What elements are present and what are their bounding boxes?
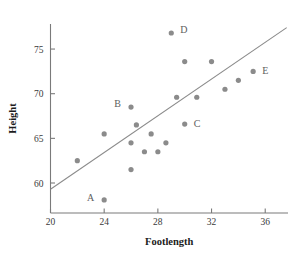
- regression-line: [51, 28, 287, 190]
- data-point: [155, 149, 160, 154]
- data-points: [75, 30, 256, 202]
- plot-canvas: 2024283236 60657075 ABCDE Footlength Hei…: [0, 0, 305, 263]
- data-point-label-c: C: [194, 118, 201, 129]
- x-tick-label: 36: [260, 217, 270, 227]
- y-tick-label: 60: [34, 179, 44, 189]
- x-axis-title: Footlength: [145, 236, 194, 247]
- x-tick-label: 28: [153, 217, 163, 227]
- data-point-label-d: D: [180, 24, 187, 35]
- x-tick-label: 32: [207, 217, 217, 227]
- data-point-label-e: E: [262, 65, 268, 76]
- data-point: [236, 78, 241, 83]
- y-axis-title: Height: [7, 103, 18, 134]
- data-point: [182, 59, 187, 64]
- data-point: [128, 140, 133, 145]
- axes: [51, 24, 289, 213]
- data-point: [102, 131, 107, 136]
- data-point: [163, 140, 168, 145]
- x-axis-ticks: 2024283236: [46, 209, 270, 228]
- trend-line: [51, 28, 287, 190]
- y-axis-ticks: 60657075: [34, 45, 55, 189]
- data-point: [149, 131, 154, 136]
- data-point-label-b: B: [114, 98, 121, 109]
- y-tick-label: 65: [34, 134, 44, 144]
- data-point: [194, 95, 199, 100]
- data-point: [169, 30, 174, 35]
- data-point: [174, 95, 179, 100]
- y-tick-label: 70: [34, 89, 44, 99]
- data-point-label-a: A: [87, 192, 95, 203]
- data-point: [142, 149, 147, 154]
- data-point: [251, 69, 256, 74]
- x-tick-label: 20: [46, 217, 56, 227]
- data-point: [222, 87, 227, 92]
- data-point: [209, 59, 214, 64]
- x-tick-label: 24: [99, 217, 109, 227]
- data-point: [128, 167, 133, 172]
- data-point: [134, 122, 139, 127]
- data-point: [75, 158, 80, 163]
- data-point: [102, 197, 107, 202]
- data-point-labels: ABCDE: [87, 24, 268, 203]
- scatter-plot-figure: 2024283236 60657075 ABCDE Footlength Hei…: [0, 0, 305, 263]
- data-point: [182, 121, 187, 126]
- data-point: [128, 104, 133, 109]
- y-tick-label: 75: [34, 45, 44, 55]
